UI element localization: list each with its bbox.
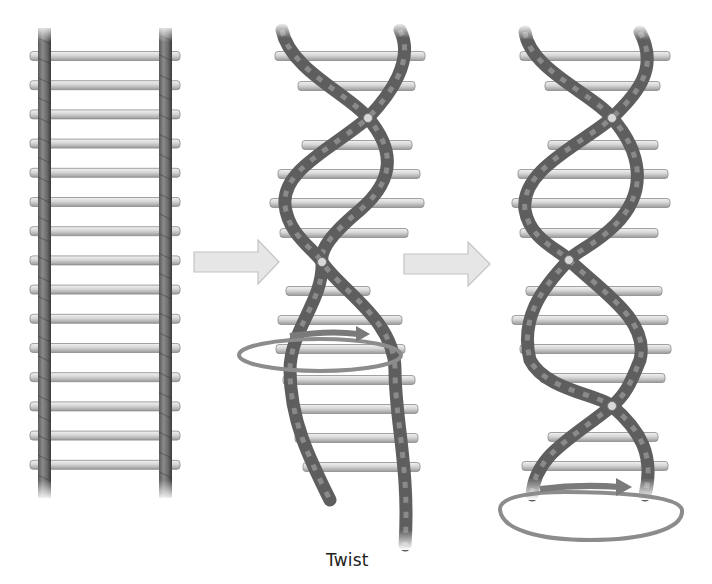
ladder-rail-left bbox=[38, 28, 51, 498]
diagram-canvas: Twist bbox=[0, 0, 712, 584]
ladder-rail-right bbox=[159, 28, 172, 498]
rung bbox=[30, 139, 180, 148]
rung bbox=[30, 314, 180, 323]
twist-label: Twist bbox=[326, 550, 369, 570]
twisting-panel bbox=[239, 22, 425, 550]
ladder-rungs bbox=[30, 52, 180, 470]
rung bbox=[30, 373, 180, 382]
rung bbox=[30, 168, 180, 177]
rung bbox=[30, 431, 180, 440]
rung bbox=[30, 344, 180, 353]
rung bbox=[30, 52, 180, 61]
rung bbox=[520, 345, 671, 354]
rung bbox=[30, 198, 180, 207]
helix-rungs bbox=[512, 52, 671, 471]
rung bbox=[30, 285, 180, 294]
arrow-right-icon bbox=[194, 240, 279, 284]
twisting-strand-a bbox=[282, 30, 387, 500]
rung bbox=[30, 227, 180, 236]
rung bbox=[30, 460, 180, 469]
rung bbox=[30, 110, 180, 119]
ladder-panel bbox=[30, 24, 180, 500]
arrow-right-icon bbox=[404, 242, 490, 286]
rung bbox=[270, 199, 424, 208]
rung bbox=[30, 256, 180, 265]
rung bbox=[30, 81, 180, 90]
rung bbox=[30, 402, 180, 411]
rung bbox=[512, 199, 670, 208]
diagram-svg bbox=[0, 0, 712, 584]
helix-panel bbox=[500, 24, 682, 540]
